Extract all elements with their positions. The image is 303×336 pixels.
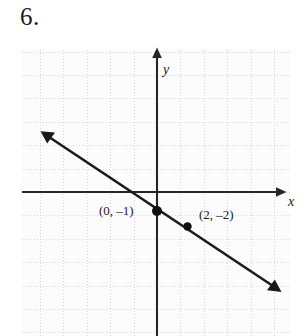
point-label-0-minus-1: (0, –1) bbox=[99, 203, 134, 219]
line-arrowhead-upper-left bbox=[41, 131, 56, 143]
y-axis-label: y bbox=[163, 62, 169, 78]
graph-svg bbox=[0, 0, 303, 336]
y-axis-arrowhead bbox=[152, 48, 162, 59]
worksheet-page: 6. y x (0, –1) (2, –2) bbox=[0, 0, 303, 336]
point-label-2-minus-2: (2, –2) bbox=[199, 207, 234, 223]
axes-group bbox=[22, 48, 287, 336]
x-axis-label: x bbox=[288, 194, 294, 210]
x-axis-arrowhead bbox=[276, 187, 287, 197]
data-point-2 bbox=[183, 222, 191, 230]
line-arrowhead-lower-right bbox=[267, 280, 282, 292]
data-point-1 bbox=[152, 206, 162, 216]
